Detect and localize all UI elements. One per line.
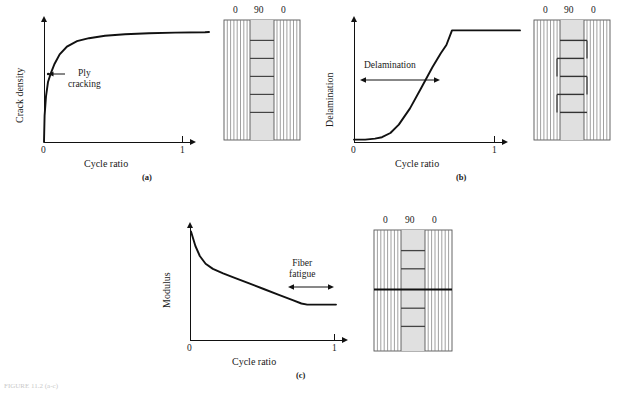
laminate-drawing-a — [222, 18, 306, 143]
fiber-fatigue-arrow — [150, 198, 375, 393]
delamination-laminate: 0 90 0 — [532, 5, 616, 155]
panel-letter-c: (c) — [296, 370, 305, 380]
laminate-header-0-left-b: 0 — [543, 5, 548, 15]
panel-b: Delamination 0 1 Cycle ratio Delaminatio… — [310, 0, 619, 195]
fiber-fatigue-laminate: 0 90 0 — [372, 215, 460, 367]
plot-b: Delamination 0 1 Cycle ratio Delaminatio… — [310, 0, 530, 195]
panel-letter-b: (b) — [456, 172, 466, 182]
figure-caption: FIGURE 11.2 (a-c) — [4, 382, 58, 390]
panel-c: Modulus 0 1 Cycle ratio Fiber fatigue (c… — [150, 198, 480, 393]
ply-cracking-arrow — [0, 0, 215, 195]
plot-c: Modulus 0 1 Cycle ratio Fiber fatigue (c… — [150, 198, 375, 393]
laminate-header-0-left-c: 0 — [383, 215, 388, 225]
ply-cracking-laminate: 0 90 0 — [222, 5, 306, 155]
plot-a: Crack density 0 1 Cycle ratio Ply cracki… — [0, 0, 215, 195]
laminate-drawing-c — [372, 228, 460, 354]
laminate-header-0-right-c: 0 — [432, 215, 437, 225]
panel-letter-a: (a) — [142, 172, 152, 182]
laminate-drawing-b — [532, 18, 616, 143]
laminate-header-0-right-b: 0 — [591, 5, 596, 15]
delamination-arrow — [310, 0, 530, 195]
laminate-header-90: 90 — [254, 5, 264, 15]
laminate-header-90-c: 90 — [405, 215, 415, 225]
laminate-header-90-b: 90 — [564, 5, 574, 15]
panel-a: Crack density 0 1 Cycle ratio Ply cracki… — [0, 0, 310, 195]
laminate-header-0-left: 0 — [233, 5, 238, 15]
laminate-header-0-right: 0 — [281, 5, 286, 15]
